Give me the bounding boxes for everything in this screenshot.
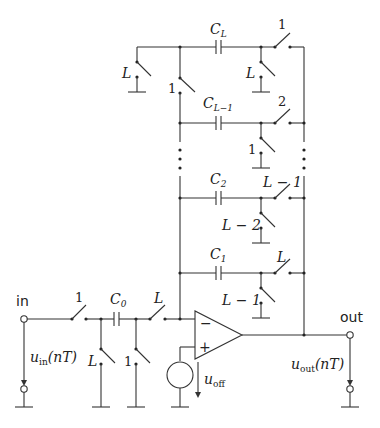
input-return-terminal [21,386,27,392]
label-switch-cl-left: L [121,65,131,81]
ellipsis-left [178,148,181,169]
label-switch-clm1-series: 2 [278,94,286,109]
label-switch-in-series: 1 [75,290,83,305]
switch-c2-shunt [261,213,275,227]
label-c1: C1 [210,246,226,264]
switch-c0-out-series [150,305,165,319]
switch-c0-right-shunt [136,349,150,363]
switch-c1-shunt [261,288,275,302]
label-switch-clm1-shunt: 1 [248,142,256,157]
label-in: in [16,293,29,309]
label-switch-c1-series: L [276,249,286,265]
label-switch-c0-right: 1 [124,354,132,369]
offset-voltage-source [167,362,193,388]
output-return-terminal [347,386,353,392]
row-c2: C2 L − 1 L − 2 [178,171,305,243]
label-switch-c0-out: L [153,290,163,306]
row-c1: C1 L L − 1 [178,246,305,318]
label-out: out [340,309,363,325]
label-switch-cl-mid: 1 [168,81,176,96]
switch-cl-mid [180,78,195,92]
input-terminal [21,316,27,322]
switch-cl-left-shunt [137,62,151,76]
label-clm1: CL−1 [203,95,233,113]
opamp-inverting-input: − [200,315,212,331]
label-u-in: uin(nT) [30,349,77,367]
output-terminal [347,332,353,338]
row-clm1: CL−1 2 1 [178,94,305,168]
label-switch-c2-series: L − 1 [262,174,302,190]
label-switch-cl-right: L [245,65,255,81]
opamp-noninverting-input: + [199,339,211,355]
label-switch-cl-series: 1 [278,17,286,32]
switch-clm1-series [275,109,290,123]
ellipsis-right [302,148,305,169]
switched-capacitor-diagram: CL 1 L 1 L [0,0,380,428]
label-c0: C0 [110,291,127,309]
label-u-out: uout(nT) [291,356,344,374]
label-switch-c2-shunt: L − 2 [221,217,261,233]
switch-cl-series [275,33,290,47]
label-switch-c0-left: L [87,353,97,369]
label-c2: C2 [210,171,227,189]
output-section: out uout(nT) [291,309,363,407]
label-cl: CL [210,21,227,39]
input-section: in 1 C0 L L 1 [15,290,195,407]
switch-in-series [72,305,86,319]
label-switch-c1-shunt: L − 1 [221,292,261,308]
switch-cl-right-shunt [261,62,275,76]
switch-c0-left-shunt [101,349,115,363]
label-u-off: uoff [204,371,225,389]
switch-clm1-shunt [261,138,275,152]
